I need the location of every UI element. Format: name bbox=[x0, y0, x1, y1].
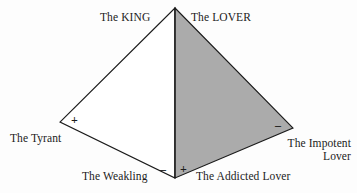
label-lover: The LOVER bbox=[191, 11, 251, 24]
polarity-sign-weakling: – bbox=[160, 163, 166, 175]
label-impotent-lover: The Impotent Lover bbox=[277, 137, 351, 163]
polarity-sign-impotent-lover: – bbox=[275, 119, 281, 131]
polarity-sign-addicted-lover: + bbox=[180, 163, 187, 175]
polarity-sign-tyrant: + bbox=[71, 114, 78, 126]
label-tyrant: The Tyrant bbox=[10, 132, 61, 145]
left-triangle-unshaded bbox=[60, 8, 175, 178]
right-triangle-shaded bbox=[175, 8, 293, 178]
label-addicted-lover: The Addicted Lover bbox=[196, 170, 290, 183]
diagram-canvas: The KING The LOVER The Tyrant The Impote… bbox=[0, 0, 357, 193]
label-weakling: The Weakling bbox=[82, 170, 148, 183]
archetype-diamond-svg bbox=[0, 0, 357, 193]
label-king: The KING bbox=[100, 11, 150, 24]
